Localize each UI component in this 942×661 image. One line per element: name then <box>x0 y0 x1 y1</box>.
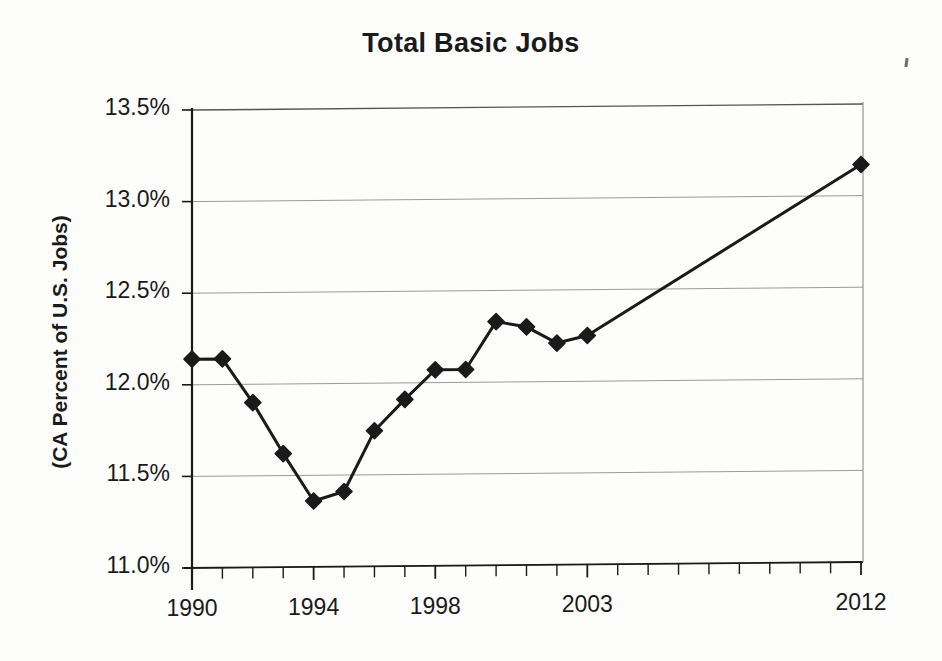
data-point-marker <box>488 314 504 330</box>
gridline <box>192 470 863 476</box>
y-tick-label: 12.5% <box>60 277 170 304</box>
x-axis-line <box>184 562 863 568</box>
y-tick-label: 11.5% <box>60 460 170 487</box>
data-point-marker <box>306 493 322 509</box>
y-tick-label: 11.0% <box>60 552 170 579</box>
data-point-marker <box>519 319 535 335</box>
x-tick-label: 1990 <box>132 595 252 622</box>
gridline <box>192 287 863 293</box>
data-point-marker <box>853 156 869 172</box>
series-markers-group <box>184 156 869 509</box>
x-tick-label: 1994 <box>254 594 374 621</box>
x-tick-label: 2012 <box>801 589 921 616</box>
data-point-marker <box>336 484 352 500</box>
data-point-marker <box>458 362 474 378</box>
gridline <box>192 379 863 385</box>
data-point-marker <box>579 327 595 343</box>
data-point-marker <box>184 351 200 367</box>
y-tick-label: 12.0% <box>60 369 170 396</box>
data-point-marker <box>549 335 565 351</box>
y-tick-label: 13.0% <box>60 186 170 213</box>
x-tick-label: 1998 <box>375 593 495 620</box>
chart-page: Total Basic Jobs (CA Percent of U.S. Job… <box>0 0 942 661</box>
gridlines-group <box>192 104 863 568</box>
gridline <box>192 196 863 202</box>
x-tick-label: 2003 <box>527 591 647 618</box>
y-tick-label: 13.5% <box>60 94 170 121</box>
gridline <box>192 104 863 110</box>
axes-group <box>184 102 863 590</box>
data-point-marker <box>275 446 291 462</box>
